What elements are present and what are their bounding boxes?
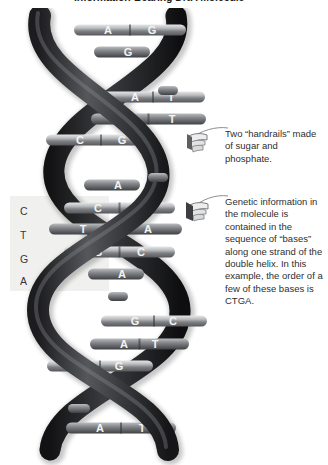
callout-genetic-information: Genetic information in the molecule is c… [225, 196, 324, 308]
callout-handrails: Two “handrails” made of sugar and phosph… [225, 128, 323, 165]
base-letter: T [152, 338, 159, 350]
base-pair-rung: G [94, 46, 150, 58]
ctga-letter-1: C [20, 205, 28, 217]
base-pair-rung: CG [46, 134, 156, 146]
base-letter: A [114, 179, 122, 191]
base-letter: C [77, 360, 85, 372]
base-pair-rung: A [84, 179, 140, 191]
base-pair-rung: AT [101, 91, 205, 103]
page-title: Information-Bearing DNA Molecule [74, 0, 244, 3]
base-letter: C [137, 246, 145, 258]
base-letter: A [131, 91, 139, 103]
pointing-hand-icon [186, 124, 230, 158]
base-letter: G [148, 24, 157, 36]
base-letter: A [96, 422, 104, 434]
ctga-letter-2: T [20, 229, 27, 241]
base-letter: A [104, 24, 112, 36]
figure-number: FIGURE 3.2 [6, 0, 54, 1]
base-letter: C [169, 315, 177, 327]
base-letter: T [168, 91, 175, 103]
base-pair-rung: AG [74, 24, 186, 36]
base-pair-rung: AT [66, 422, 176, 434]
ctga-letter-4: A [20, 275, 27, 287]
base-pair-rung: CG [47, 360, 153, 372]
base-letter: G [131, 315, 140, 327]
base-letter: G [118, 134, 127, 146]
ctga-letter-3: G [20, 253, 28, 265]
base-letter: G [115, 360, 124, 372]
base-letter: T [139, 422, 146, 434]
base-letter: G [137, 202, 146, 214]
base-letter: A [121, 113, 129, 125]
base-letter: C [76, 134, 84, 146]
base-pair-rung: GC [101, 315, 207, 327]
figure-title-bar: FIGURE 3.2 Information-Bearing DNA Molec… [0, 0, 328, 5]
base-letter: T [169, 113, 176, 125]
base-letter: G [124, 46, 133, 58]
base-letter: A [144, 223, 152, 235]
pointing-hand-icon [186, 190, 230, 230]
base-letter: A [120, 338, 128, 350]
base-pair-rung: AT [90, 338, 189, 350]
base-letter: A [118, 268, 126, 280]
